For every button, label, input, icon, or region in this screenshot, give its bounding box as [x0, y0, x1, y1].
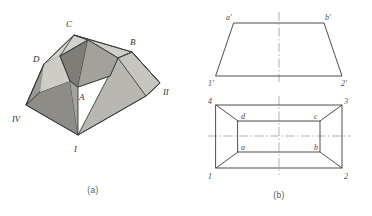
orthographic-drawing: a' b' 1' 2' 4 3 1 2 d c a — [186, 0, 372, 190]
label-1-prime: 1' — [208, 79, 214, 88]
label-b-prime: b' — [325, 13, 331, 22]
label-IV: IV — [11, 114, 22, 124]
panel-orthographic-views: a' b' 1' 2' 4 3 1 2 d c a — [186, 0, 372, 216]
label-C: C — [66, 19, 73, 29]
label-2: 2 — [344, 172, 348, 181]
panel-pictorial-view: C B D A I II IV (a) — [0, 0, 186, 216]
label-A: A — [78, 92, 85, 102]
label-b: b — [314, 143, 318, 152]
caption-a: (a) — [0, 185, 186, 195]
plan-diagonal-3-c — [320, 105, 342, 121]
plan-diagonal-2-b — [320, 152, 342, 168]
caption-b: (b) — [186, 190, 372, 200]
label-a-prime: a' — [226, 13, 232, 22]
label-1: 1 — [208, 172, 212, 181]
label-D: D — [32, 54, 40, 64]
plan-diagonal-4-d — [216, 105, 238, 121]
label-d: d — [241, 112, 246, 121]
label-a: a — [241, 143, 245, 152]
label-2-prime: 2' — [341, 79, 347, 88]
label-4: 4 — [208, 97, 212, 106]
figure-root: C B D A I II IV (a) a' b' 1' 2' — [0, 0, 372, 216]
label-3: 3 — [343, 97, 348, 106]
label-I: I — [73, 144, 78, 154]
pictorial-drawing: C B D A I II IV — [0, 0, 186, 186]
label-II: II — [162, 87, 170, 97]
label-B: B — [130, 37, 136, 47]
label-c: c — [314, 112, 318, 121]
plan-diagonal-1-a — [216, 152, 238, 168]
